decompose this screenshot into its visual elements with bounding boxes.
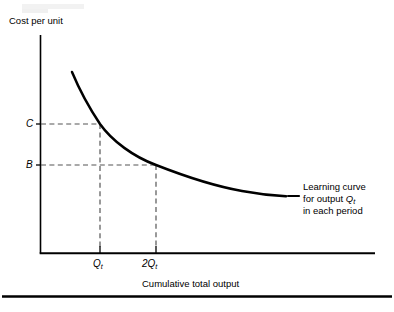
- x-axis-title: Cumulative total output: [142, 278, 239, 289]
- chart-canvas: [0, 0, 394, 312]
- x-tick-qt-subscript: t: [101, 262, 103, 271]
- x-axis-tick-label-qt: Qt: [93, 258, 103, 270]
- x-tick-2qt-base: 2Q: [142, 258, 155, 269]
- learning-curve-figure: Cost per unit Cumulative total output C …: [0, 0, 394, 312]
- x-axis-tick-label-2qt: 2Qt: [142, 258, 157, 270]
- x-tick-2qt-subscript: t: [155, 262, 157, 271]
- curve-annotation-line-3: in each period: [303, 205, 366, 217]
- y-axis-tick-label-c: C: [26, 118, 33, 129]
- y-axis-tick-label-b: B: [26, 159, 33, 170]
- curve-annotation-line-2: for output Qt: [303, 193, 366, 206]
- x-tick-qt-base: Q: [93, 258, 101, 269]
- curve-annotation-line-2-prefix: for output: [303, 193, 346, 204]
- learning-curve: [72, 72, 286, 196]
- scan-artifact: [22, 4, 84, 13]
- curve-annotation-line-1: Learning curve: [303, 181, 366, 193]
- curve-annotation: Learning curve for output Qt in each per…: [303, 181, 366, 217]
- curve-annotation-output-subscript: t: [353, 197, 355, 206]
- y-axis-title: Cost per unit: [9, 15, 63, 26]
